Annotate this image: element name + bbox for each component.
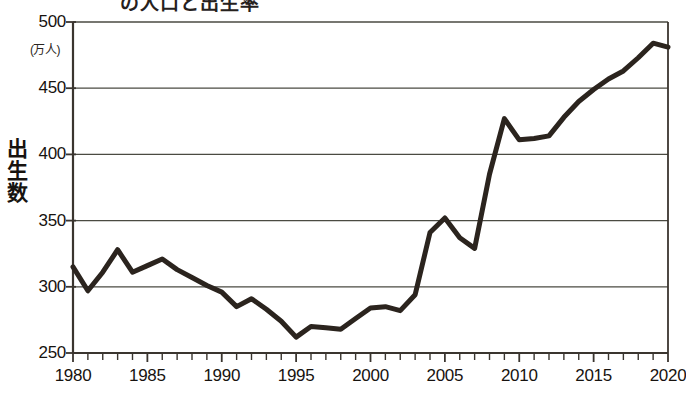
data-series-line	[73, 43, 668, 337]
